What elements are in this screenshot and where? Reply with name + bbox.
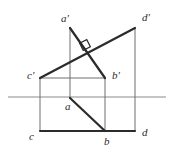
label-b: b [104, 135, 110, 147]
label-b-prime: b' [112, 69, 121, 81]
geometry-figure: a' d' c' b' a c b d [0, 0, 174, 154]
segment-a-b-top [70, 98, 105, 131]
label-a-prime: a' [61, 12, 70, 24]
vertex-labels-group: a' d' c' b' a c b d [27, 11, 151, 147]
label-d: d [142, 126, 148, 138]
segment-c-prime-d-prime [40, 28, 135, 78]
projection-drawing-canvas: a' d' c' b' a c b d [0, 0, 174, 154]
label-d-prime: d' [142, 11, 151, 23]
label-c: c [29, 130, 34, 142]
label-c-prime: c' [27, 69, 35, 81]
object-lines-group [40, 28, 135, 131]
label-a: a [65, 100, 71, 112]
